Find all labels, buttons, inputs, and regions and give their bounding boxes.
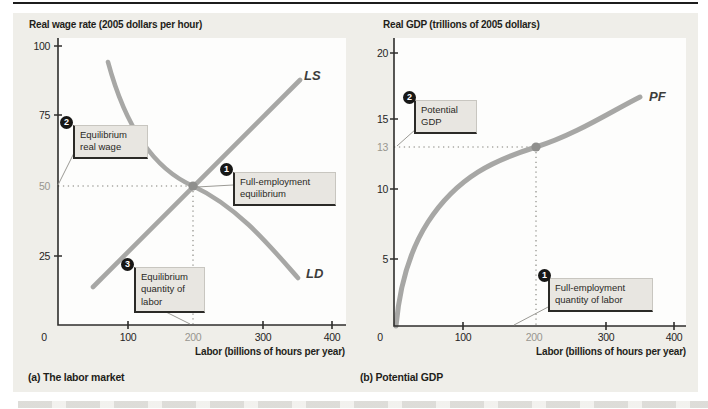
potential-gdp-caption: (b) Potential GDP: [360, 371, 443, 383]
x-tick-300-b: 300: [586, 331, 626, 343]
y-tick-75: 75: [20, 109, 50, 121]
x-highlight-200-b: 200: [514, 331, 554, 343]
equilibrium-point: [188, 181, 197, 190]
equilibrium-quantity-callout: Equilibrium quantity of labor: [134, 267, 205, 313]
labor-market-caption: (a) The labor market: [28, 371, 124, 383]
x-tick-400: 400: [312, 331, 352, 343]
y-tick-5: 5: [358, 253, 388, 265]
potential-gdp-callout: Potential GDP: [414, 100, 477, 134]
x-tick-400-b: 400: [654, 331, 694, 343]
full-employment-equilibrium-callout: Full-employment equilibrium: [233, 172, 336, 206]
potential-gdp-guide-lines: [394, 147, 536, 325]
y-tick-25: 25: [20, 250, 50, 262]
callout-badge-1b: 1: [538, 269, 551, 282]
full-employment-equilibrium-text: Full-employment equilibrium: [240, 176, 310, 199]
potential-gdp-x-axis-label: Labor (billions of hours per year): [500, 346, 686, 357]
labor-market-x-axis-label: Labor (billions of hours per year): [160, 346, 345, 357]
y-tick-20: 20: [358, 47, 388, 59]
labor-supply-curve-label: LS: [304, 68, 321, 83]
origin-label-a: 0: [24, 331, 64, 343]
origin-label-b: 0: [360, 331, 400, 343]
full-employment-quantity-text: Full-employment quantity of labor: [555, 282, 625, 305]
potential-gdp-text: Potential GDP: [421, 104, 458, 127]
labor-market-title: Real wage rate (2005 dollars per hour): [29, 19, 202, 30]
x-tick-100: 100: [108, 331, 148, 343]
full-employment-quantity-leader: [514, 306, 550, 325]
y-highlight-50: 50: [20, 180, 50, 192]
potential-gdp-title: Real GDP (trillions of 2005 dollars): [383, 19, 540, 30]
labor-demand-curve-label: LD: [306, 266, 323, 281]
x-tick-300: 300: [243, 331, 283, 343]
equilibrium-real-wage-text: Equilibrium real wage: [80, 129, 127, 152]
callout-badge-2b: 2: [403, 91, 416, 104]
equilibrium-real-wage-leader: [58, 153, 74, 185]
equilibrium-real-wage-callout: Equilibrium real wage: [73, 125, 148, 159]
x-highlight-200: 200: [173, 331, 213, 343]
y-tick-15: 15: [358, 113, 388, 125]
callout-badge-3a: 3: [121, 258, 134, 271]
y-tick-10: 10: [358, 183, 388, 195]
x-tick-100-b: 100: [443, 331, 483, 343]
full-employment-quantity-callout: Full-employment quantity of labor: [548, 278, 653, 312]
callout-badge-2a: 2: [60, 116, 73, 129]
full-employment-equilibrium-leader: [197, 185, 233, 187]
production-function-curve-label: PF: [649, 89, 666, 104]
y-highlight-13: 13: [358, 141, 388, 153]
potential-gdp-point: [531, 142, 540, 151]
equilibrium-quantity-text: Equilibrium quantity of labor: [141, 271, 188, 307]
cropped-next-figure-edge: [18, 401, 708, 408]
figure-two-panel-chart: Real wage rate (2005 dollars per hour) 1…: [0, 0, 708, 409]
y-tick-100: 100: [20, 40, 50, 52]
callout-badge-1a: 1: [220, 163, 233, 176]
